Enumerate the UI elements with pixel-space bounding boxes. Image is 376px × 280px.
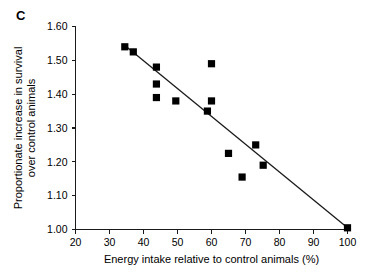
axes-group xyxy=(76,27,348,230)
y-axis-title-line-2: over control animals xyxy=(25,78,37,177)
y-tick-label-1.20: 1.20 xyxy=(47,156,68,168)
data-point xyxy=(121,43,128,50)
regression-line-group xyxy=(123,44,347,228)
data-point xyxy=(153,64,160,71)
y-axis-ticks: 1.001.101.201.301.401.501.60 xyxy=(47,20,75,235)
scatter-plot: 1.001.101.201.301.401.501.60 20304050607… xyxy=(0,0,376,280)
x-tick-label-50: 50 xyxy=(172,236,184,248)
data-point xyxy=(344,224,351,231)
y-tick-label-1.30: 1.30 xyxy=(47,122,68,134)
x-tick-label-40: 40 xyxy=(138,236,150,248)
x-axis-title: Energy intake relative to control animal… xyxy=(104,253,319,265)
y-tick-label-1.60: 1.60 xyxy=(47,20,68,32)
y-tick-label-1.50: 1.50 xyxy=(47,54,68,66)
data-point xyxy=(239,173,246,180)
y-axis-title-line-1: Proportionate increase in survival xyxy=(12,47,24,210)
x-tick-label-90: 90 xyxy=(308,236,320,248)
y-tick-label-1.40: 1.40 xyxy=(47,88,68,100)
data-point xyxy=(130,48,137,55)
x-tick-label-80: 80 xyxy=(274,236,286,248)
data-point xyxy=(172,97,179,104)
data-point xyxy=(153,80,160,87)
x-tick-label-20: 20 xyxy=(70,236,82,248)
data-point xyxy=(225,150,232,157)
y-tick-label-1.10: 1.10 xyxy=(47,189,68,201)
x-axis-ticks: 2030405060708090100 xyxy=(70,230,357,248)
data-point xyxy=(208,60,215,67)
figure-panel-c: C 1.001.101.201.301.401.501.60 203040506… xyxy=(0,0,376,280)
data-point xyxy=(260,162,267,169)
x-tick-label-100: 100 xyxy=(339,236,357,248)
data-point xyxy=(252,141,259,148)
data-point xyxy=(153,94,160,101)
x-tick-label-60: 60 xyxy=(206,236,218,248)
regression-line xyxy=(123,44,347,228)
y-tick-label-1.00: 1.00 xyxy=(47,223,68,235)
data-point xyxy=(204,107,211,114)
data-point xyxy=(208,97,215,104)
x-tick-label-70: 70 xyxy=(240,236,252,248)
x-tick-label-30: 30 xyxy=(104,236,116,248)
